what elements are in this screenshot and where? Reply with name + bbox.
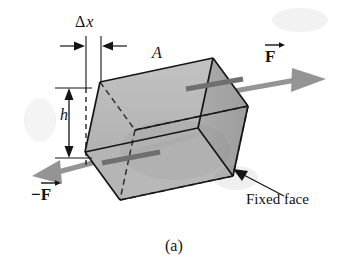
figure-caption: (a) <box>165 238 183 254</box>
height-arrowhead-down <box>65 146 74 158</box>
force-vector-negative-wrap: F <box>41 186 51 203</box>
delta-x-arrowhead-left <box>74 42 85 51</box>
force-symbol: F <box>265 47 275 66</box>
figure-canvas <box>0 0 353 268</box>
delta-x-label: Δx <box>75 14 93 30</box>
shear-block-figure: Δx h A F − F Fixed face (a) <box>0 0 353 268</box>
force-vector-positive-wrap: F <box>265 48 275 65</box>
fixed-face-label: Fixed face <box>246 192 309 207</box>
minus-sign: − <box>31 185 41 204</box>
delta-symbol: Δ <box>75 13 85 30</box>
height-label: h <box>60 107 68 123</box>
area-label: A <box>152 45 162 61</box>
force-symbol: F <box>41 185 51 204</box>
force-vector-negative-label: − F <box>31 186 51 203</box>
delta-x-variable: x <box>85 13 93 30</box>
delta-x-arrowhead-right <box>102 42 113 51</box>
force-vector-positive-label: F <box>265 48 275 65</box>
height-arrowhead-up <box>65 88 74 100</box>
